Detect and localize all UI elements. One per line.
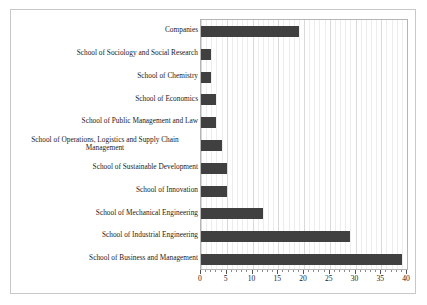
x-tick-minor [215,270,216,272]
bar[interactable] [201,254,402,265]
x-tick-minor [293,270,294,272]
x-tick-minor [298,270,299,272]
x-tick-minor [241,270,242,272]
bar-row [201,88,408,111]
gridline-major [407,20,408,269]
x-tick-minor [272,270,273,272]
x-tick-minor [288,270,289,272]
x-tick-minor [349,270,350,272]
category-label: School of Public Management and Law [12,117,198,126]
x-tick-major [226,270,227,274]
x-tick-minor [205,270,206,272]
x-tick-minor [370,270,371,272]
category-label: School of Industrial Engineering [12,231,198,240]
x-tick-label: 40 [402,274,410,284]
bar-row [201,134,408,157]
bar-row [201,111,408,134]
x-tick-minor [318,270,319,272]
x-tick-minor [401,270,402,272]
bars-layer [201,20,407,269]
bar-row [201,66,408,89]
chart-figure: CompaniesSchool of Sociology and Social … [0,0,427,305]
bar[interactable] [201,163,227,174]
x-tick-minor [257,270,258,272]
x-tick-minor [313,270,314,272]
category-label: School of Operations, Logistics and Supp… [12,136,198,153]
bar-row [201,203,408,226]
bar[interactable] [201,117,216,128]
y-axis-category-labels: CompaniesSchool of Sociology and Social … [12,19,198,270]
x-tick-minor [344,270,345,272]
x-tick-label: 30 [351,274,359,284]
x-tick-minor [221,270,222,272]
bar-row [201,225,408,248]
category-label: School of Sociology and Social Research [12,49,198,58]
x-tick-major [329,270,330,274]
bar[interactable] [201,94,216,105]
bar-row [201,157,408,180]
x-tick-minor [236,270,237,272]
x-tick-major [200,270,201,274]
x-tick-label: 10 [248,274,256,284]
bar[interactable] [201,208,263,219]
x-tick-minor [262,270,263,272]
x-tick-minor [267,270,268,272]
x-tick-label: 5 [224,274,228,284]
x-tick-minor [210,270,211,272]
bar[interactable] [201,26,299,37]
x-tick-minor [385,270,386,272]
x-tick-minor [334,270,335,272]
x-tick-minor [375,270,376,272]
x-tick-minor [339,270,340,272]
x-tick-minor [365,270,366,272]
x-axis-tick-labels: 0510152025303540 [200,274,408,286]
x-tick-minor [360,270,361,272]
x-tick-minor [246,270,247,272]
x-tick-label: 20 [299,274,307,284]
category-label: School of Economics [12,95,198,104]
x-tick-label: 25 [325,274,333,284]
bar[interactable] [201,231,350,242]
x-tick-major [355,270,356,274]
bar[interactable] [201,140,222,151]
category-label: School of Mechanical Engineering [12,209,198,218]
x-tick-minor [324,270,325,272]
category-label: School of Sustainable Development [12,163,198,172]
bar-row [201,43,408,66]
bar-row [201,20,408,43]
category-label: Companies [12,26,198,35]
x-tick-minor [391,270,392,272]
x-tick-minor [231,270,232,272]
x-tick-label: 15 [273,274,281,284]
bar[interactable] [201,72,211,83]
plot-area [200,19,408,270]
category-label: School of Business and Management [12,254,198,263]
bar[interactable] [201,49,211,60]
x-tick-label: 35 [376,274,384,284]
bar-row [201,248,408,270]
category-label: School of Innovation [12,186,198,195]
x-tick-label: 0 [198,274,202,284]
x-tick-major [406,270,407,274]
x-tick-major [303,270,304,274]
x-tick-minor [396,270,397,272]
x-tick-major [277,270,278,274]
x-tick-major [380,270,381,274]
bar-row [201,180,408,203]
category-label: School of Chemistry [12,72,198,81]
x-tick-minor [282,270,283,272]
bar[interactable] [201,186,227,197]
x-tick-minor [308,270,309,272]
x-tick-major [252,270,253,274]
